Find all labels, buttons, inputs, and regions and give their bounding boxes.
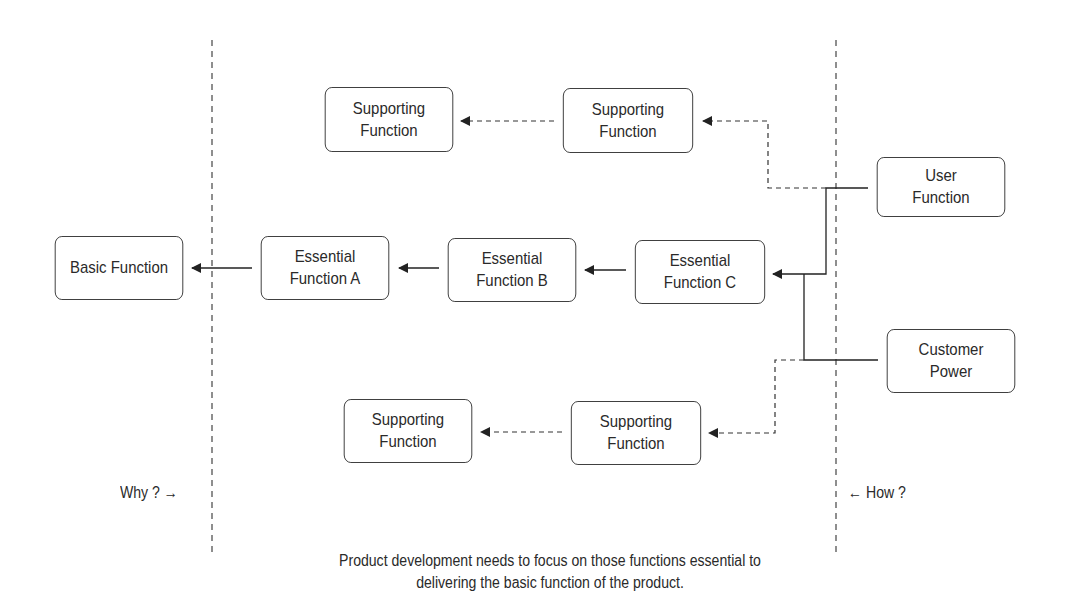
node-label-line1: Supporting <box>372 409 444 431</box>
node-label-line2: Function C <box>664 272 736 294</box>
node-label-line1: User <box>925 165 957 187</box>
essential-function-c-node: Essential Function C <box>635 240 765 304</box>
figure-caption: Product development needs to focus on th… <box>242 550 858 594</box>
node-label-line2: Function <box>599 121 656 143</box>
node-label-line2: Power <box>930 361 972 383</box>
caption-line2: delivering the basic function of the pro… <box>242 572 858 594</box>
supporting-function-top-left-node: Supporting Function <box>325 87 453 152</box>
essential-function-b-node: Essential Function B <box>448 238 576 302</box>
node-label-line2: Function <box>912 187 969 209</box>
node-label-line1: Essential <box>670 250 731 272</box>
how-label: ← How ? <box>848 484 906 502</box>
node-label-line2: Function <box>360 120 417 142</box>
supporting-function-bottom-left-node: Supporting Function <box>344 399 472 463</box>
node-label: Basic Function <box>70 257 168 279</box>
node-label-line1: Supporting <box>353 98 425 120</box>
customer-power-node: Customer Power <box>887 329 1015 393</box>
why-label: Why ? → <box>120 484 178 502</box>
basic-function-node: Basic Function <box>55 236 183 300</box>
supporting-function-bottom-right-node: Supporting Function <box>571 401 701 465</box>
node-label-line2: Function <box>379 431 436 453</box>
supporting-function-top-right-node: Supporting Function <box>563 88 693 153</box>
node-label-line1: Supporting <box>600 411 672 433</box>
caption-line1: Product development needs to focus on th… <box>242 550 858 572</box>
node-label-line1: Essential <box>295 246 356 268</box>
node-label-line2: Function <box>607 433 664 455</box>
essential-function-a-node: Essential Function A <box>261 236 389 300</box>
node-label-line2: Function A <box>290 268 361 290</box>
node-label-line1: Essential <box>482 248 543 270</box>
node-label-line2: Function B <box>476 270 548 292</box>
node-label-line1: Supporting <box>592 99 664 121</box>
node-label-line1: Customer <box>919 339 984 361</box>
user-function-node: User Function <box>877 157 1005 217</box>
